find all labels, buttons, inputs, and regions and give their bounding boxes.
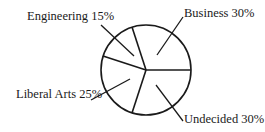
- label-business: Business 30%: [184, 6, 255, 20]
- boundary-engineering-liberalarts: [103, 56, 146, 70]
- leader-line-business: [157, 17, 183, 55]
- leader-line-undecided: [156, 85, 183, 121]
- label-engineering: Engineering 15%: [27, 9, 114, 23]
- label-liberal-arts: Liberal Arts 25%: [16, 87, 102, 101]
- label-undecided: Undecided 30%: [184, 112, 264, 126]
- boundary-liberalarts-undecided: [132, 70, 146, 113]
- pie-chart: Engineering 15% Business 30% Liberal Art…: [0, 0, 265, 132]
- leader-line-engineering: [101, 25, 134, 56]
- boundary-business-engineering: [132, 27, 146, 70]
- leader-lines: [91, 17, 183, 121]
